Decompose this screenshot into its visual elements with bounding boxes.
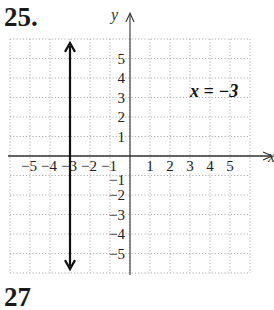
svg-text:−5: −5	[109, 246, 125, 262]
svg-text:−4: −4	[41, 158, 57, 174]
svg-text:5: 5	[118, 51, 126, 67]
svg-text:1: 1	[146, 158, 154, 174]
next-problem-number: 27	[4, 282, 31, 310]
svg-text:3: 3	[118, 90, 126, 106]
svg-text:−2: −2	[81, 158, 97, 174]
svg-text:5: 5	[226, 158, 234, 174]
svg-text:−2: −2	[109, 187, 125, 203]
svg-text:2: 2	[118, 109, 126, 125]
svg-text:3: 3	[186, 158, 194, 174]
svg-text:−3: −3	[109, 207, 125, 223]
y-axis-label: y	[109, 6, 119, 24]
svg-text:4: 4	[206, 158, 214, 174]
svg-text:1: 1	[118, 129, 126, 145]
svg-text:−5: −5	[21, 158, 37, 174]
x-axis-label: x	[267, 148, 274, 165]
svg-text:−4: −4	[109, 226, 125, 242]
axes	[8, 13, 272, 275]
svg-text:2: 2	[166, 158, 174, 174]
svg-text:4: 4	[118, 70, 126, 86]
equation-label: x = −3	[189, 81, 238, 101]
svg-text:−1: −1	[109, 172, 125, 188]
